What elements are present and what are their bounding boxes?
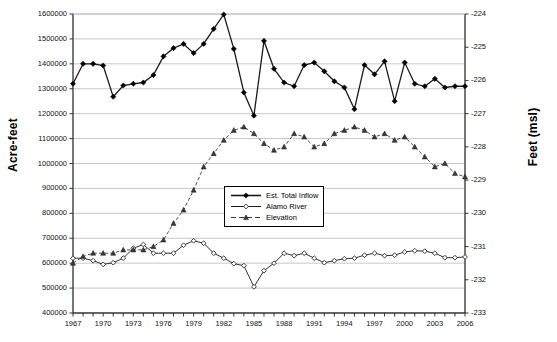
y-tick-label-left: 1000000 — [8, 159, 67, 168]
y-tick-label-left: 900000 — [8, 183, 67, 192]
y-tick-label-left: 1300000 — [8, 84, 67, 93]
legend-label: Alamo River — [266, 201, 307, 212]
y-tick-label-left: 1500000 — [8, 34, 67, 43]
legend-marker-filled-diamond-icon — [229, 190, 263, 201]
y-tick-label-left: 400000 — [8, 308, 67, 317]
y-tick-label-right: -225 — [471, 42, 486, 51]
legend-item: Elevation — [229, 212, 318, 223]
legend-label: Est. Total Inflow — [266, 190, 318, 201]
y-tick-label-left: 800000 — [8, 208, 67, 217]
y-tick-label-right: -226 — [471, 75, 486, 84]
legend-marker-open-diamond-icon — [229, 201, 263, 212]
y-tick-label-left: 500000 — [8, 283, 67, 292]
legend-label: Elevation — [266, 212, 297, 223]
y-tick-label-left: 1200000 — [8, 109, 67, 118]
series-0 — [70, 12, 467, 118]
legend-item: Est. Total Inflow — [229, 190, 318, 201]
legend-item: Alamo River — [229, 201, 318, 212]
y-tick-label-right: -227 — [471, 109, 486, 118]
y-tick-label-right: -228 — [471, 142, 486, 151]
series-1 — [71, 238, 468, 289]
y-tick-label-right: -231 — [471, 242, 486, 251]
y-tick-label-right: -229 — [471, 175, 486, 184]
y-tick-label-right: -230 — [471, 208, 486, 217]
y-tick-label-right: -224 — [471, 9, 486, 18]
plot-area — [0, 0, 557, 342]
legend-marker-triangle-icon — [229, 212, 263, 223]
y-tick-label-left: 600000 — [8, 258, 67, 267]
chart-container: Acre-feet Feet (msl) 4000005000006000007… — [0, 0, 557, 342]
axis-tick-marks — [70, 14, 469, 317]
y-tick-label-left: 700000 — [8, 233, 67, 242]
y-tick-label-left: 1100000 — [8, 134, 67, 143]
y-tick-label-right: -233 — [471, 308, 486, 317]
x-tick-label: 2006 — [445, 319, 485, 328]
y-tick-label-left: 1400000 — [8, 59, 67, 68]
y-tick-label-left: 1600000 — [8, 9, 67, 18]
chart-legend: Est. Total InflowAlamo RiverElevation — [224, 186, 324, 227]
y-axis-title-right: Feet (msl) — [526, 82, 540, 192]
y-tick-label-right: -232 — [471, 275, 486, 284]
